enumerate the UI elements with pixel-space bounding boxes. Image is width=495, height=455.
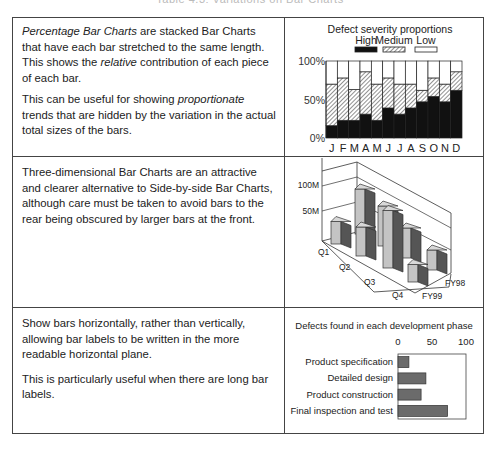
category-label: Product construction — [306, 389, 393, 400]
3d-plot: 100M50MQ1Q2Q3Q4FY98FY99 — [298, 158, 466, 301]
y-tick-label: 0% — [310, 132, 325, 144]
bar-fy99-q4 — [408, 260, 428, 287]
bar-segment-medium — [349, 89, 360, 120]
category-label: Detailed design — [328, 372, 394, 383]
bar-segment-medium — [439, 84, 450, 102]
legend-swatch-medium — [383, 47, 405, 52]
paragraph: Percentage Bar Charts are stacked Bar Ch… — [22, 24, 277, 86]
bar-segment-high — [428, 96, 439, 138]
x-tick-label: N — [441, 142, 449, 154]
x-tick-label: A — [362, 142, 370, 154]
bar-segment-medium — [337, 78, 348, 120]
text-run: This can be useful for showing — [22, 93, 178, 105]
bar-segment-low — [383, 61, 394, 78]
3d-bar-description: Three-dimensional Bar Charts are an attr… — [22, 165, 277, 233]
bar-segment-high — [349, 120, 360, 138]
bar-segment-high — [417, 102, 428, 138]
legend-swatch-low — [415, 47, 437, 52]
category-label: Q1 — [318, 247, 330, 257]
bar-segment-low — [349, 61, 360, 89]
table-title: Table 4.3: Variations on Bar Charts — [140, 0, 360, 3]
category-label: Q4 — [392, 290, 404, 300]
x-tick-label: 50 — [427, 336, 438, 347]
category-label: Q3 — [364, 277, 376, 287]
y-tick-label: 50% — [304, 94, 325, 106]
bar-segment-medium — [371, 84, 382, 120]
bar-segment-low — [439, 61, 450, 84]
bar-segment-medium — [326, 84, 337, 126]
x-tick-label: 100 — [458, 336, 474, 347]
bar-segment-low — [394, 61, 405, 84]
chart-title: Defects found in each development phase — [295, 320, 472, 331]
text-run: trends that are hidden by the variation … — [22, 109, 276, 137]
bar-segment-high — [337, 120, 348, 138]
horizontal-bar-description: Show bars horizontally, rather than vert… — [22, 316, 277, 409]
category-label: Product specification — [305, 356, 393, 367]
legend-label-high: High — [355, 34, 377, 46]
row-divider — [13, 307, 483, 308]
bar-fy99-q3 — [383, 206, 403, 273]
bar — [398, 357, 409, 368]
x-tick-label: F — [340, 142, 347, 154]
x-tick-label: M — [350, 142, 359, 154]
bar-segment-medium — [360, 72, 371, 114]
bar-segment-high — [439, 102, 450, 138]
bar-segment-high — [326, 126, 337, 138]
x-tick-label: D — [452, 142, 460, 154]
term-proportionate: proportionate — [178, 93, 245, 105]
x-tick-label: 0 — [395, 336, 400, 347]
bar-segment-low — [428, 61, 439, 78]
bar-fy98-q4 — [427, 245, 447, 274]
series-label-fy99: FY99 — [422, 291, 443, 301]
percentage-bar-description: Percentage Bar Charts are stacked Bar Ch… — [22, 24, 277, 145]
bar-segment-high — [383, 108, 394, 138]
x-tick-label: M — [372, 142, 381, 154]
x-tick-label: J — [386, 142, 392, 154]
bar — [398, 389, 421, 400]
x-tick-label: J — [397, 142, 403, 154]
category-label: Q2 — [339, 262, 351, 272]
y-tick-label: 100% — [298, 55, 325, 67]
bar-segment-low — [451, 61, 462, 72]
bar-segment-medium — [417, 90, 428, 102]
legend-label-medium: Medium — [375, 34, 413, 46]
bar-segment-medium — [405, 84, 416, 108]
bar-segment-high — [394, 114, 405, 138]
paragraph: This is particularly useful when there a… — [22, 372, 277, 403]
x-tick-label: A — [407, 142, 415, 154]
bar-segment-medium — [383, 78, 394, 108]
bar — [398, 405, 448, 416]
horizontal-bar-chart: Defects found in each development phase0… — [285, 309, 483, 433]
bar-segment-low — [360, 61, 371, 72]
x-tick-label: O — [429, 142, 438, 154]
paragraph: Show bars horizontally, rather than vert… — [22, 316, 277, 363]
bar-segment-low — [326, 61, 337, 84]
bar — [398, 373, 426, 384]
bar-segment-medium — [394, 84, 405, 114]
bar-segment-medium — [451, 72, 462, 90]
series-label-fy98: FY98 — [445, 278, 466, 288]
x-tick-label: S — [419, 142, 426, 154]
legend-swatch-high — [355, 47, 377, 52]
bar-segment-low — [405, 61, 416, 84]
bar-segment-low — [371, 61, 382, 84]
bar-segment-medium — [428, 78, 439, 96]
bar-segment-high — [451, 90, 462, 138]
bar-segment-low — [417, 61, 428, 90]
row-divider — [13, 156, 483, 157]
bar-segment-high — [405, 108, 416, 138]
category-label: Final inspection and test — [291, 405, 394, 416]
bar-segment-high — [371, 120, 382, 138]
legend-label-low: Low — [416, 34, 436, 46]
paragraph: This can be useful for showing proportio… — [22, 92, 277, 139]
x-tick-label: J — [329, 142, 335, 154]
z-tick-label: 50M — [302, 206, 319, 216]
bar-segment-high — [360, 114, 371, 138]
z-tick-label: 100M — [298, 180, 319, 190]
term-percentage-bar-charts: Percentage Bar Charts — [22, 25, 137, 37]
term-relative: relative — [100, 56, 136, 68]
bar-segment-low — [337, 61, 348, 78]
bar-fy98-q3 — [401, 223, 421, 262]
paragraph: Three-dimensional Bar Charts are an attr… — [22, 165, 277, 227]
percentage-bar-chart: Defect severity proportionsHighMediumLow… — [285, 18, 483, 156]
